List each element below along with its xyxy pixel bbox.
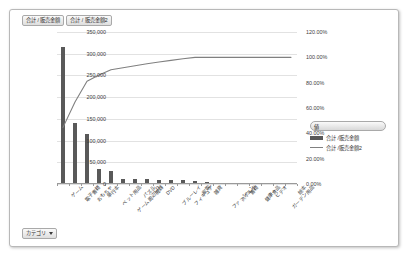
x-axis-category-labels: ゲーム電子書籍おもちゃ単行本ペット用品ゲーム周辺機器パズルCDDVDブルーレイフ… xyxy=(57,185,297,237)
secondary-y-axis-tick-label: 60.00% xyxy=(306,105,324,111)
legend-header[interactable]: 値 xyxy=(310,121,386,131)
y-axis-tick-label: 350,000 xyxy=(87,29,107,35)
series-field-button-1[interactable]: 合計 / 販売金額 xyxy=(22,15,64,26)
legend-header-label: 値 xyxy=(314,123,319,130)
secondary-y-axis-tick-label: 20.00% xyxy=(306,156,324,162)
y-axis-tick-label: 300,000 xyxy=(87,51,107,57)
series-field-button-1-label: 合計 / 販売金額 xyxy=(26,18,60,23)
x-axis-tick xyxy=(297,184,298,186)
category-field-button[interactable]: カテゴリ xyxy=(22,228,57,239)
legend-item-line: 合計 /販売金額2 xyxy=(310,144,386,151)
legend-item-bar: 合計 /販売金額 xyxy=(310,134,386,141)
x-axis-category-label: 雑貨 xyxy=(213,185,224,196)
secondary-y-axis-tick-label: 120.00% xyxy=(306,29,327,35)
x-axis-category-label: DVD xyxy=(165,185,176,196)
secondary-y-axis-tick-label: 100.00% xyxy=(306,54,327,60)
x-axis-category-label: ペット用品 xyxy=(121,185,142,206)
series-field-button-2[interactable]: 合計 / 販売金額2 xyxy=(66,15,111,26)
y-axis-tick-label: 250,000 xyxy=(87,72,107,78)
pivot-chart-object[interactable]: 合計 / 販売金額 合計 / 販売金額2 カテゴリ 050,000100,000… xyxy=(9,9,399,247)
legend-item-bar-label: 合計 /販売金額 xyxy=(326,134,359,141)
secondary-y-axis-tick-label: 80.00% xyxy=(306,80,324,86)
legend: 値 合計 /販売金額 合計 /販売金額2 xyxy=(310,121,386,151)
y-axis-tick-label: 50,000 xyxy=(90,159,107,165)
y-axis-tick-label: 200,000 xyxy=(87,94,107,100)
category-field-button-label: カテゴリ xyxy=(26,231,46,236)
y-axis-tick-label: 100,000 xyxy=(87,138,107,144)
legend-swatch-line-icon xyxy=(310,147,323,148)
series-field-button-2-label: 合計 / 販売金額2 xyxy=(70,18,107,23)
series-field-buttons: 合計 / 販売金額 合計 / 販売金額2 xyxy=(22,15,112,26)
legend-item-line-label: 合計 /販売金額2 xyxy=(326,144,362,151)
legend-swatch-bar-icon xyxy=(310,136,323,140)
x-axis-category-label: ゲーム xyxy=(70,185,84,199)
y-axis-tick-label: 150,000 xyxy=(87,116,107,122)
chevron-down-icon xyxy=(49,232,53,235)
